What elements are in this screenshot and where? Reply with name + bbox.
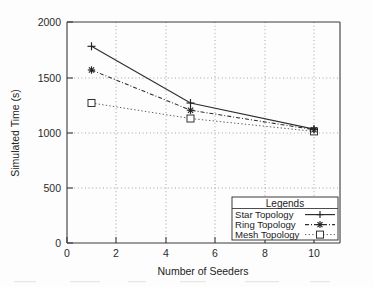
legend-label-mesh: Mesh Topology [235, 229, 300, 240]
chart-container: 0 500 1000 1500 2000 0 2 4 6 8 10 Number… [0, 0, 373, 287]
xtick-label-4: 4 [163, 247, 169, 259]
series-ring-marker-x1 [88, 66, 95, 73]
x-axis-title: Number of Seeders [157, 265, 248, 277]
xtick-label-0: 0 [64, 247, 70, 259]
ytick-label-0: 0 [55, 237, 61, 249]
series-mesh-marker-x5 [187, 115, 194, 122]
series-mesh-marker-x1 [88, 100, 95, 107]
line-chart-figure: 0 500 1000 1500 2000 0 2 4 6 8 10 Number… [0, 0, 373, 287]
ytick-label-1500: 1500 [38, 72, 62, 84]
y-axis-title: Simulated Time (s) [9, 89, 21, 177]
legend-marker-square-icon [317, 231, 324, 238]
series-ring-marker-x5 [187, 107, 194, 114]
xtick-label-2: 2 [113, 247, 119, 259]
xtick-label-8: 8 [262, 247, 268, 259]
xtick-label-6: 6 [212, 247, 218, 259]
xtick-label-10: 10 [308, 247, 320, 259]
legend-marker-asterisk-icon [317, 221, 324, 228]
ytick-label-2000: 2000 [38, 16, 62, 28]
legend[interactable]: Legends Star Topology Ring Topology [232, 197, 338, 240]
ytick-label-1000: 1000 [38, 127, 62, 139]
ytick-label-500: 500 [43, 182, 61, 194]
legend-title: Legends [266, 198, 304, 209]
